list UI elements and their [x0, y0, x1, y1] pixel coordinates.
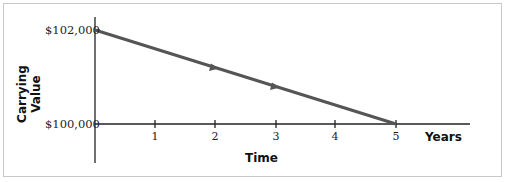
x-axis-title: Time	[245, 151, 278, 165]
x-tick-label: 5	[393, 130, 400, 143]
x-tick-label: 1	[152, 130, 159, 143]
y-axis-title: Carrying Value	[15, 49, 43, 139]
carrying-value-line	[95, 30, 396, 124]
x-tick-label: 4	[332, 130, 339, 143]
x-unit-label: Years	[425, 130, 462, 144]
x-tick-label: 3	[273, 130, 280, 143]
y-tick-label: $102,000	[45, 23, 100, 37]
y-tick-label: $100,000	[45, 117, 100, 131]
x-tick-label: 2	[212, 130, 219, 143]
